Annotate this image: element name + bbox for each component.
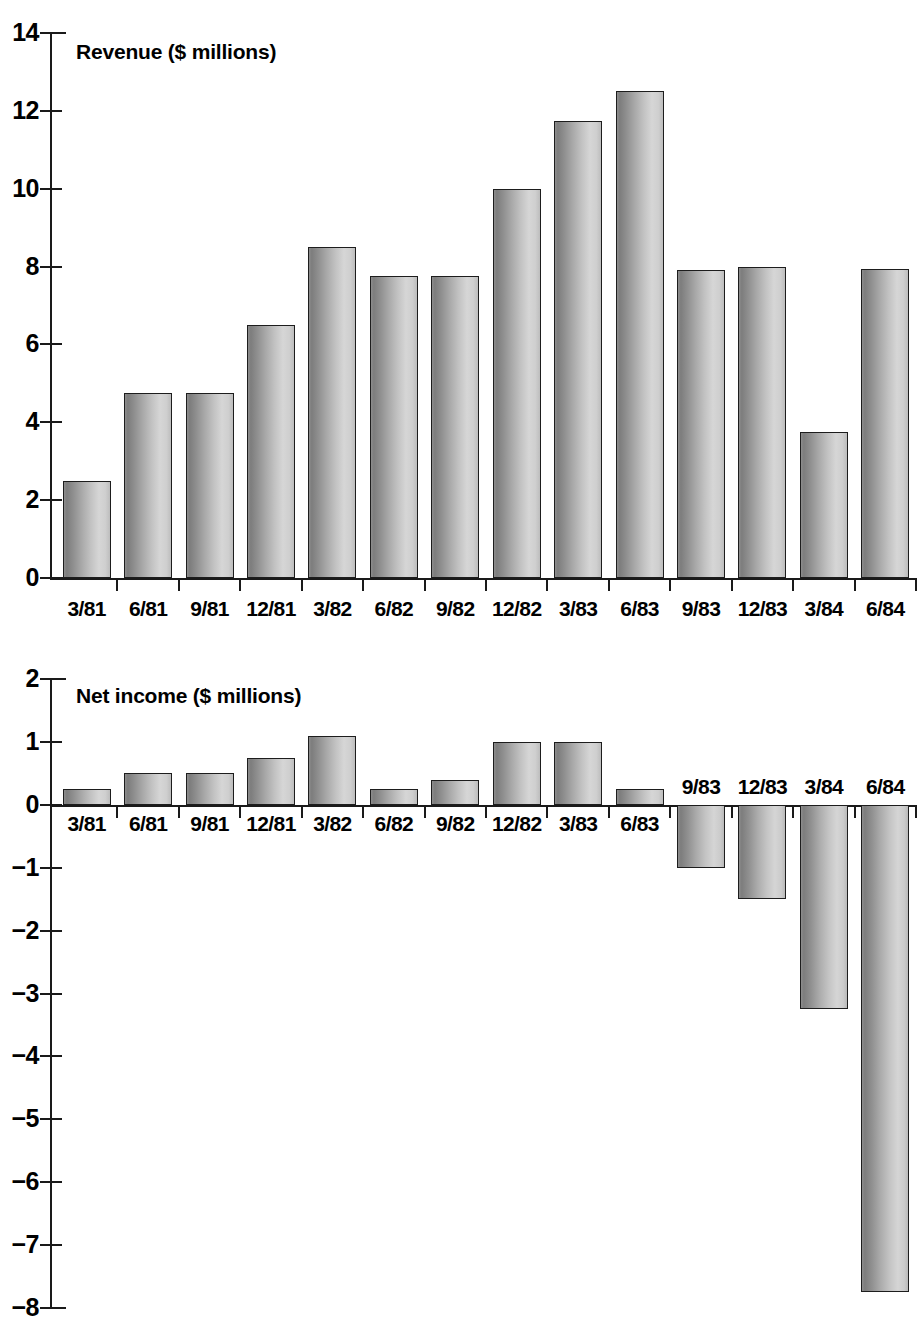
revenue-bars-group bbox=[0, 0, 920, 650]
bar-3/83 bbox=[554, 121, 602, 578]
x-axis-label-9/83: 9/83 bbox=[670, 597, 731, 621]
bar-9/81 bbox=[186, 393, 234, 578]
x-axis-label-3/83: 3/83 bbox=[547, 812, 608, 836]
x-axis-label-9/81: 9/81 bbox=[179, 597, 240, 621]
x-axis-label-6/82: 6/82 bbox=[363, 812, 424, 836]
x-axis-label-9/83: 9/83 bbox=[670, 775, 731, 799]
x-axis-label-3/81: 3/81 bbox=[56, 597, 117, 621]
bar-12/82 bbox=[493, 189, 541, 578]
x-axis-label-6/81: 6/81 bbox=[117, 812, 178, 836]
bar-9/82 bbox=[431, 780, 479, 805]
bar-6/82 bbox=[370, 276, 418, 578]
bar-6/84 bbox=[861, 805, 909, 1292]
x-axis-label-9/81: 9/81 bbox=[179, 812, 240, 836]
bar-6/84 bbox=[861, 269, 909, 578]
x-axis-label-3/82: 3/82 bbox=[302, 597, 363, 621]
bar-9/83 bbox=[677, 805, 725, 868]
bar-12/81 bbox=[247, 758, 295, 805]
x-axis-label-12/83: 12/83 bbox=[732, 775, 793, 799]
bar-3/84 bbox=[800, 432, 848, 578]
x-axis-label-3/82: 3/82 bbox=[302, 812, 363, 836]
net-income-chart: Net income ($ millions) 210−1−2−3−4−5−6−… bbox=[0, 650, 920, 1324]
bar-6/83 bbox=[616, 789, 664, 805]
x-axis-label-12/81: 12/81 bbox=[240, 812, 301, 836]
x-axis-label-6/84: 6/84 bbox=[855, 597, 916, 621]
x-axis-label-12/82: 12/82 bbox=[486, 812, 547, 836]
bar-12/81 bbox=[247, 325, 295, 578]
bar-6/82 bbox=[370, 789, 418, 805]
x-axis-label-12/82: 12/82 bbox=[486, 597, 547, 621]
revenue-chart: Revenue ($ millions) 02468101214 3/816/8… bbox=[0, 0, 920, 650]
x-axis-label-3/81: 3/81 bbox=[56, 812, 117, 836]
bar-6/83 bbox=[616, 91, 664, 578]
x-axis-label-9/82: 9/82 bbox=[425, 597, 486, 621]
x-axis-label-6/83: 6/83 bbox=[609, 597, 670, 621]
x-axis-label-6/83: 6/83 bbox=[609, 812, 670, 836]
x-axis-label-9/82: 9/82 bbox=[425, 812, 486, 836]
bar-6/81 bbox=[124, 393, 172, 578]
bar-3/83 bbox=[554, 742, 602, 805]
bar-9/81 bbox=[186, 773, 234, 804]
x-axis-label-3/84: 3/84 bbox=[793, 597, 854, 621]
bar-3/82 bbox=[308, 736, 356, 805]
x-axis-label-6/84: 6/84 bbox=[855, 775, 916, 799]
bar-6/81 bbox=[124, 773, 172, 804]
bar-3/82 bbox=[308, 247, 356, 578]
bar-3/81 bbox=[63, 789, 111, 805]
bar-12/82 bbox=[493, 742, 541, 805]
bar-12/83 bbox=[738, 267, 786, 578]
bar-3/81 bbox=[63, 481, 111, 578]
x-axis-label-3/84: 3/84 bbox=[793, 775, 854, 799]
bar-9/82 bbox=[431, 276, 479, 578]
net-income-bars-group bbox=[0, 650, 920, 1324]
bar-9/83 bbox=[677, 270, 725, 578]
x-axis-label-12/83: 12/83 bbox=[732, 597, 793, 621]
bar-12/83 bbox=[738, 805, 786, 899]
x-axis-label-12/81: 12/81 bbox=[240, 597, 301, 621]
x-axis-label-6/82: 6/82 bbox=[363, 597, 424, 621]
x-axis-label-3/83: 3/83 bbox=[547, 597, 608, 621]
x-axis-label-6/81: 6/81 bbox=[117, 597, 178, 621]
bar-3/84 bbox=[800, 805, 848, 1009]
